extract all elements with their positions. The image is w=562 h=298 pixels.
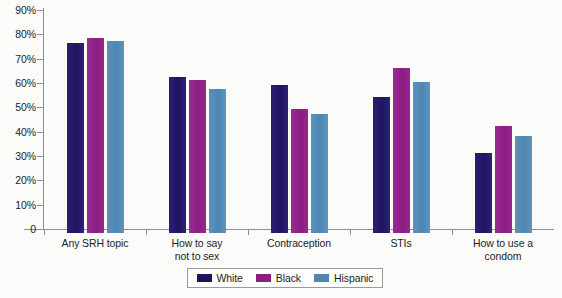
y-axis-tick <box>37 132 43 133</box>
x-axis-label-line: How to say <box>146 237 248 250</box>
y-axis-tick-label: 40% <box>0 127 36 138</box>
bar-group <box>67 10 124 231</box>
y-axis-tick <box>37 229 43 230</box>
x-axis-label-0: Any SRH topic <box>44 237 146 250</box>
x-axis-label-line: STIs <box>350 237 452 250</box>
y-axis-tick <box>37 83 43 84</box>
x-axis-label-line: not to sex <box>146 250 248 263</box>
bar-black-3 <box>393 68 410 233</box>
bar-hispanic-0 <box>107 41 124 233</box>
y-axis-tick-label: 30% <box>0 151 36 162</box>
legend-label: Hispanic <box>334 273 373 284</box>
bar-group <box>271 10 328 231</box>
y-axis-tick <box>37 34 43 35</box>
y-axis-tick <box>37 107 43 108</box>
bar-white-2 <box>271 85 288 233</box>
bar-hispanic-3 <box>413 82 430 233</box>
bar-hispanic-2 <box>311 114 328 233</box>
bar-hispanic-1 <box>209 89 226 233</box>
x-axis-label-3: STIs <box>350 237 452 250</box>
bar-group <box>169 10 226 231</box>
y-axis-tick <box>37 205 43 206</box>
y-axis-tick-label: 80% <box>0 29 36 40</box>
y-axis-tick-label: 0 <box>0 224 36 235</box>
legend-item-black: Black <box>256 273 301 284</box>
y-axis-tick-label: 20% <box>0 175 36 186</box>
chart-legend: WhiteBlackHispanic <box>187 268 383 288</box>
x-axis-label-line: How to use a <box>452 237 554 250</box>
bar-group <box>373 10 430 231</box>
bar-black-2 <box>291 109 308 233</box>
y-axis-tick-label: 90% <box>0 5 36 16</box>
y-axis-tick <box>37 59 43 60</box>
bar-black-1 <box>189 80 206 233</box>
y-axis-tick-label: 70% <box>0 54 36 65</box>
bar-white-4 <box>475 153 492 233</box>
x-axis-label-2: Contraception <box>248 237 350 250</box>
legend-swatch-icon <box>256 274 271 282</box>
y-axis-tick-label: 10% <box>0 200 36 211</box>
y-axis-tick <box>37 10 43 11</box>
legend-item-hispanic: Hispanic <box>314 273 373 284</box>
bar-hispanic-4 <box>515 136 532 233</box>
x-axis-label-line: Contraception <box>248 237 350 250</box>
bar-group <box>475 10 532 231</box>
bar-chart: 90%80%70%60%50%40%30%20%10%0 Any SRH top… <box>0 0 562 298</box>
x-axis-label-line: condom <box>452 250 554 263</box>
bar-black-4 <box>495 126 512 233</box>
plot-area <box>44 8 554 231</box>
x-axis-label-4: How to use acondom <box>452 237 554 262</box>
legend-item-white: White <box>197 273 243 284</box>
y-axis-tick <box>37 180 43 181</box>
legend-swatch-icon <box>197 274 212 282</box>
legend-swatch-icon <box>314 274 329 282</box>
x-axis-label-1: How to saynot to sex <box>146 237 248 262</box>
bar-white-1 <box>169 77 186 233</box>
bar-black-0 <box>87 38 104 233</box>
bar-white-3 <box>373 97 390 233</box>
legend-label: Black <box>276 273 301 284</box>
y-axis-tick-label: 60% <box>0 78 36 89</box>
y-axis-tick <box>37 156 43 157</box>
x-axis-label-line: Any SRH topic <box>44 237 146 250</box>
y-axis-tick-label: 50% <box>0 102 36 113</box>
legend-label: White <box>217 273 243 284</box>
bar-white-0 <box>67 43 84 233</box>
